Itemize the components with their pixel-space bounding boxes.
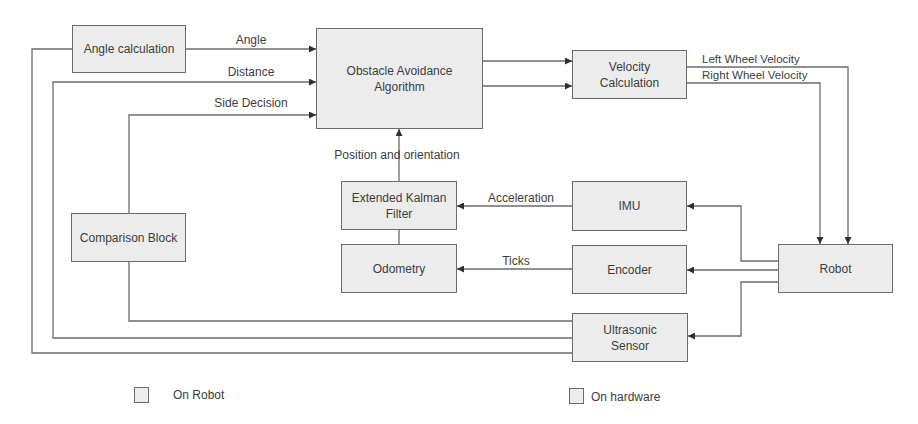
label-side-decision: Side Decision <box>214 96 287 110</box>
imu-block: IMU <box>572 181 687 231</box>
velocity-calculation-block: Velocity Calculation <box>572 50 687 99</box>
label-ticks: Ticks <box>502 254 530 268</box>
legend-label-on-hardware: On hardware <box>591 390 660 404</box>
wire-side-decision <box>129 115 316 213</box>
label-distance: Distance <box>228 65 275 79</box>
comparison-block: Comparison Block <box>71 213 186 262</box>
robot-block: Robot <box>778 244 893 293</box>
angle-calculation-block: Angle calculation <box>72 25 186 73</box>
legend-swatch-on-hardware <box>569 388 584 404</box>
wire-left-wheel-velocity <box>687 67 848 244</box>
wire-distance <box>53 82 572 338</box>
legend-swatch-on-robot <box>134 387 149 403</box>
wire-robot-ultrasonic <box>688 282 778 336</box>
extended-kalman-filter-block: Extended Kalman Filter <box>341 181 457 230</box>
label-right-wheel-velocity: Right Wheel Velocity <box>702 68 807 82</box>
legend-label-on-robot: On Robot <box>173 388 224 402</box>
encoder-block: Encoder <box>572 245 687 294</box>
label-left-wheel-velocity: Left Wheel Velocity <box>702 52 800 66</box>
label-position-orientation: Position and orientation <box>334 148 459 162</box>
ultrasonic-sensor-block: Ultrasonic Sensor <box>572 313 688 362</box>
label-angle: Angle <box>236 33 267 47</box>
label-acceleration: Acceleration <box>488 191 554 205</box>
obstacle-avoidance-block: Obstacle Avoidance Algorithm <box>316 28 483 129</box>
odometry-block: Odometry <box>341 244 457 293</box>
wire-robot-imu <box>687 206 778 261</box>
wire-right-wheel-velocity <box>687 83 820 244</box>
